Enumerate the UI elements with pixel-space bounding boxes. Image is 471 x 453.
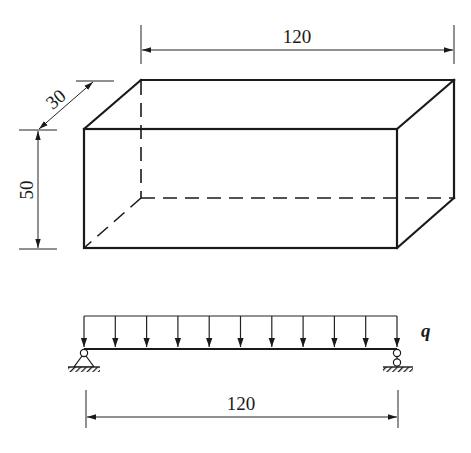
dimension-span-bottom: 120	[86, 390, 398, 428]
pin-support-icon	[68, 349, 100, 372]
hidden-edges	[84, 81, 454, 248]
simply-supported-beam: q	[68, 316, 431, 372]
dimension-length-top: 120	[141, 25, 454, 64]
length-label: 120	[283, 26, 312, 47]
depth-label: 30	[42, 85, 70, 113]
diagram-canvas: 120 30 50	[0, 0, 471, 453]
rectangular-prism	[84, 80, 454, 248]
height-label: 50	[16, 181, 37, 200]
dimension-height: 50	[16, 131, 57, 249]
distributed-load: q	[84, 316, 431, 347]
roller-support-icon	[383, 349, 413, 372]
visible-edges	[84, 80, 454, 248]
load-label-q: q	[421, 320, 431, 341]
dimension-depth: 30	[19, 81, 114, 130]
load-arrows	[84, 316, 397, 347]
span-label: 120	[227, 393, 256, 414]
